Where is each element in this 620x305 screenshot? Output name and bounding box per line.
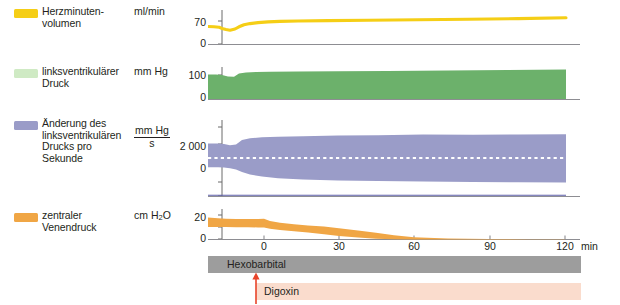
xaxis-unit: min xyxy=(581,241,598,251)
unit-dp-dt-numerator: mm Hg xyxy=(134,125,170,138)
panel1-ytick-70: 70 xyxy=(182,17,206,27)
digoxin-arrow-icon xyxy=(250,272,262,305)
panel2-ytick-0: 0 xyxy=(176,92,206,102)
legend-swatch-cardiac-output xyxy=(14,9,38,18)
panel-cardiac-output xyxy=(208,8,580,48)
panel2-ytick-100: 100 xyxy=(176,70,206,80)
figure-root: Herzminuten- volumen linksventrikulärer … xyxy=(0,0,620,305)
legend-label-lv-pressure: linksventrikulärer Druck xyxy=(42,66,134,89)
legend-label-cardiac-output: Herzminuten- volumen xyxy=(42,6,134,29)
treatment-label-digoxin: Digoxin xyxy=(264,283,299,300)
panel-cvp xyxy=(208,206,580,244)
xtick-0: 0 xyxy=(250,241,278,251)
legend-swatch-dp-dt xyxy=(14,121,38,130)
panel-dp-dt xyxy=(208,118,580,200)
xtick-90: 90 xyxy=(476,241,504,251)
panel4-ytick-20: 20 xyxy=(176,212,206,222)
panel1-ytick-0: 0 xyxy=(182,38,206,48)
legend-label-dp-dt: Änderung des linksventrikulären Drucks p… xyxy=(42,118,134,165)
treatment-bar-digoxin xyxy=(256,283,581,300)
panel3-ytick-0: 0 xyxy=(165,163,206,173)
legend-label-cvp: zentraler Venendruck xyxy=(42,210,134,233)
unit-cardiac-output: ml/min xyxy=(134,6,192,18)
panel-lv-pressure xyxy=(208,62,580,104)
xtick-120: 120 xyxy=(551,241,579,251)
unit-cvp-subscript: 2 xyxy=(159,213,163,222)
treatment-label-hexobarbital: Hexobarbital xyxy=(227,256,286,273)
legend-swatch-cvp xyxy=(14,213,38,222)
panel4-ytick-0: 0 xyxy=(176,233,206,243)
xtick-60: 60 xyxy=(400,241,428,251)
panel3-ytick-2000: 2 000 xyxy=(165,141,206,151)
xtick-30: 30 xyxy=(325,241,353,251)
legend-swatch-lv-pressure xyxy=(14,69,38,78)
